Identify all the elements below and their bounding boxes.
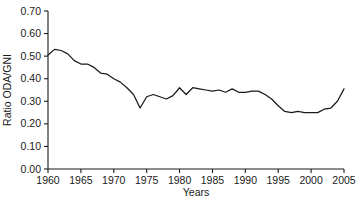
y-tick-label: 0.20 (21, 117, 42, 129)
y-tick-label: 0.50 (21, 50, 42, 62)
ratio-oda-gni-line-chart: 0.000.100.200.300.400.500.600.70 1960196… (0, 0, 360, 210)
x-tick-label: 1960 (36, 174, 60, 186)
x-tick-label: 1990 (234, 174, 258, 186)
x-tick-label: 2005 (332, 174, 356, 186)
y-tick-label: 0.40 (21, 72, 42, 84)
x-tick-label: 2000 (299, 174, 323, 186)
x-tick-label: 1995 (267, 174, 291, 186)
x-tick-label: 1965 (69, 174, 93, 186)
y-tick-label: 0.00 (21, 163, 42, 175)
x-tick-label: 1975 (135, 174, 159, 186)
x-tick-label: 1985 (201, 174, 225, 186)
chart-container: 0.000.100.200.300.400.500.600.70 1960196… (0, 0, 360, 210)
y-tick-label: 0.70 (21, 5, 42, 17)
y-tick-label: 0.60 (21, 27, 42, 39)
x-tick-label: 1980 (168, 174, 192, 186)
y-tick-label: 0.30 (21, 95, 42, 107)
x-tick-label: 1970 (102, 174, 126, 186)
y-axis-title: Ratio ODA/GNI (1, 54, 13, 126)
x-axis-title: Years (183, 186, 209, 198)
y-tick-label: 0.10 (21, 140, 42, 152)
